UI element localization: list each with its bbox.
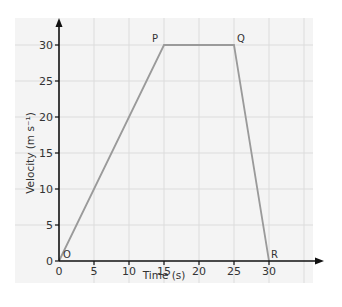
- x-tick-label: 10: [122, 265, 136, 278]
- x-axis-arrow-icon: [315, 258, 324, 265]
- x-tick-label: 25: [227, 265, 241, 278]
- y-tick-label: 5: [46, 219, 53, 232]
- y-tick-label: 0: [46, 255, 53, 268]
- x-tick-label: 5: [91, 265, 98, 278]
- x-tick-label: 0: [56, 265, 63, 278]
- y-axis-title: Velocity (m s⁻¹): [24, 112, 36, 194]
- point-label-r: R: [271, 249, 278, 260]
- velocity-time-chart: 051015202530051015202530 OPQR Time (s) V…: [0, 0, 342, 307]
- y-tick-label: 30: [39, 39, 53, 52]
- y-tick-label: 10: [39, 183, 53, 196]
- point-label-q: Q: [237, 33, 245, 44]
- point-label-p: P: [152, 33, 158, 44]
- y-tick-label: 15: [39, 147, 53, 160]
- x-tick-label: 20: [192, 265, 206, 278]
- y-tick-label: 20: [39, 111, 53, 124]
- x-tick-label: 30: [262, 265, 276, 278]
- x-axis-title: Time (s): [142, 269, 186, 281]
- y-tick-label: 25: [39, 75, 53, 88]
- point-label-o: O: [63, 249, 71, 260]
